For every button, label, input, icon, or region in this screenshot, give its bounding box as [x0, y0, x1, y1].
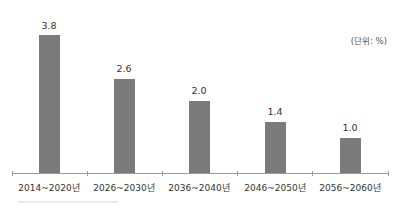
- category-label: 2056~2060년: [312, 181, 388, 194]
- x-axis-tick: [312, 171, 313, 176]
- value-label: 2.0: [179, 85, 219, 96]
- category-label: 2046~2050년: [237, 181, 313, 194]
- unit-label: (단위: %): [351, 34, 387, 46]
- value-label: 2.6: [104, 63, 144, 74]
- x-axis-tick: [12, 171, 13, 176]
- value-label: 3.8: [29, 20, 69, 31]
- bar-2036-2040: [189, 101, 210, 173]
- bar-2014-2020: [39, 35, 60, 173]
- x-axis-tick: [388, 171, 389, 176]
- bar-2056-2060: [340, 138, 361, 173]
- x-axis-tick: [162, 171, 163, 176]
- value-label: 1.4: [255, 106, 295, 117]
- faded-footnote: [18, 201, 118, 203]
- value-label: 1.0: [330, 122, 370, 133]
- x-axis-tick: [237, 171, 238, 176]
- x-axis: [12, 173, 389, 174]
- bar-2026-2030: [114, 79, 135, 173]
- category-label: 2026~2030년: [86, 181, 162, 194]
- x-axis-tick: [87, 171, 88, 176]
- category-label: 2036~2040년: [161, 181, 237, 194]
- bar-2046-2050: [265, 122, 286, 173]
- category-label: 2014~2020년: [11, 181, 87, 194]
- bar-chart: (단위: %) 3.8 2014~2020년 2.6 2026~2030년 2.…: [0, 0, 399, 208]
